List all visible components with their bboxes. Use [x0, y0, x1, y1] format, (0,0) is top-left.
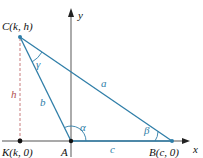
- point-k-label: K(k, 0): [1, 146, 33, 158]
- y-axis-label: y: [77, 9, 83, 21]
- triangle-diagram: y x C(k, h) A B(c, 0) K(k, 0) a b c α β …: [0, 0, 203, 158]
- side-c-label: c: [110, 143, 115, 155]
- point-b-label: B(c, 0): [149, 146, 179, 158]
- point-c: [18, 35, 22, 39]
- altitude-label: h: [11, 88, 17, 100]
- point-a: [69, 139, 73, 143]
- x-axis-arrow-icon: [182, 138, 190, 144]
- point-k: [18, 139, 23, 144]
- side-b: [20, 37, 71, 141]
- side-a-label: a: [101, 77, 107, 89]
- angle-beta-label: β: [143, 124, 150, 136]
- x-axis-label: x: [192, 143, 198, 155]
- point-b: [170, 139, 174, 143]
- point-a-label: A: [60, 146, 68, 158]
- y-axis-arrow-icon: [68, 8, 74, 17]
- point-c-label: C(k, h): [2, 20, 33, 33]
- angle-beta-arc: [155, 132, 158, 142]
- side-b-label: b: [40, 96, 46, 108]
- angle-gamma-label: γ: [36, 58, 41, 70]
- angle-alpha-label: α: [80, 121, 86, 133]
